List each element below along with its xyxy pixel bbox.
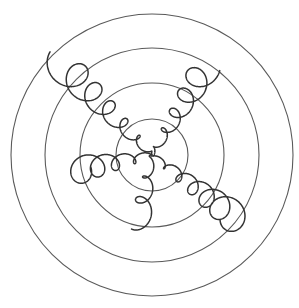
arm-northwest (47, 52, 152, 155)
concentric-circle-loop-diagram (0, 0, 299, 308)
arm-south (132, 155, 154, 230)
arm-west (71, 153, 152, 183)
arm-southeast (151, 156, 245, 232)
